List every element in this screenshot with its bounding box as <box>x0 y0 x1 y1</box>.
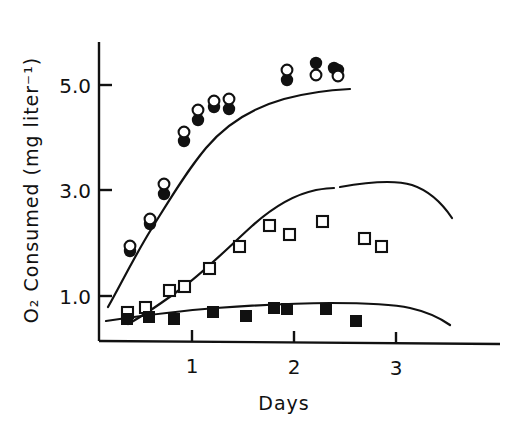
y-tick-label-5: 5.0 <box>59 74 91 98</box>
x-tick-label-2: 2 <box>288 355 301 379</box>
data-point <box>320 303 332 315</box>
data-point <box>311 70 322 81</box>
data-point <box>209 96 220 107</box>
data-point <box>282 65 293 76</box>
data-point <box>264 220 275 231</box>
y-axis-title: O₂ Consumed (mg liter⁻¹) <box>20 57 42 323</box>
y-tick-marks <box>99 85 112 296</box>
data-point <box>281 303 293 315</box>
data-point <box>376 241 387 252</box>
data-point <box>204 263 215 274</box>
data-point <box>284 229 295 240</box>
data-point <box>125 241 136 252</box>
x-axis-line <box>99 341 500 344</box>
data-point <box>310 57 322 69</box>
data-point <box>193 105 204 116</box>
data-point <box>159 179 170 190</box>
data-point <box>145 214 156 225</box>
fit-curves <box>106 89 452 325</box>
data-point <box>179 281 190 292</box>
series-filled-circle <box>124 57 344 257</box>
data-point <box>350 315 362 327</box>
data-point <box>317 216 328 227</box>
data-point <box>359 233 370 244</box>
data-point <box>224 94 235 105</box>
fit-curve-open-squares-right <box>340 182 452 218</box>
y-tick-label-3: 3.0 <box>59 179 91 203</box>
data-point <box>168 313 180 325</box>
y-tick-labels: 5.0 3.0 1.0 <box>59 74 91 309</box>
y-tick-label-1: 1.0 <box>59 285 91 309</box>
x-tick-label-3: 3 <box>390 356 403 380</box>
oxygen-consumption-chart: 5.0 3.0 1.0 1 2 3 O₂ Consumed (mg liter⁻… <box>0 0 521 433</box>
data-point <box>207 306 219 318</box>
data-point <box>121 313 133 325</box>
data-point <box>164 285 175 296</box>
data-point <box>333 71 344 82</box>
x-axis-title: Days <box>258 392 309 414</box>
data-point <box>240 310 252 322</box>
x-tick-label-1: 1 <box>186 354 199 378</box>
x-tick-labels: 1 2 3 <box>186 354 403 380</box>
data-point <box>143 311 155 323</box>
data-point <box>179 127 190 138</box>
data-point <box>268 302 280 314</box>
fit-curve-circles <box>108 89 350 307</box>
data-point <box>234 241 245 252</box>
